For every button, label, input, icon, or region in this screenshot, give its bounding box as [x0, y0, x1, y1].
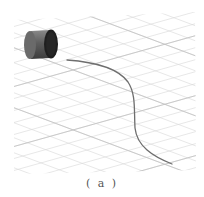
- cylinder: [24, 30, 58, 60]
- figure-caption: ( a ): [0, 177, 204, 190]
- figure: ( a ): [0, 0, 204, 197]
- scene-3d-plot: [0, 0, 204, 197]
- ground-grid: [0, 0, 204, 197]
